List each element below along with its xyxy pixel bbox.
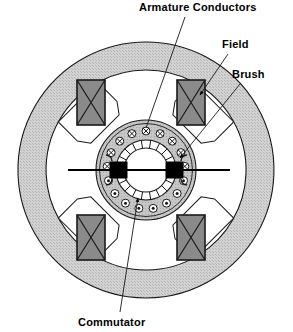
field-coil-top-right <box>177 80 205 125</box>
conductor-dot-glyph <box>113 192 116 195</box>
conductor-dot-glyph <box>182 179 185 182</box>
label-commutator: Commutator <box>78 316 146 328</box>
conductor-current-out <box>163 199 171 207</box>
label-brush: Brush <box>232 68 265 80</box>
conductor-current-in <box>116 137 124 145</box>
conductor-current-out <box>121 199 129 207</box>
conductor-current-in <box>168 137 176 145</box>
label-armature_conductors: Armature Conductors <box>139 1 256 13</box>
conductor-current-in <box>142 127 150 135</box>
conductor-dot-glyph <box>152 207 155 210</box>
conductor-current-in <box>128 130 136 138</box>
label-field: Field <box>222 38 249 50</box>
field-coil-bottom-right <box>177 215 205 260</box>
conductor-current-in <box>156 130 164 138</box>
conductor-current-out <box>149 204 157 212</box>
brush-left-block <box>110 162 127 178</box>
conductor-dot-glyph <box>124 202 127 205</box>
brush-right-block <box>166 162 183 178</box>
conductor-dot-glyph <box>165 202 168 205</box>
conductor-dot-glyph <box>107 179 110 182</box>
conductor-dot-glyph <box>137 207 140 210</box>
conductor-current-out <box>173 190 181 198</box>
field-coil-top-left <box>77 80 105 125</box>
diagram-canvas: Armature ConductorsFieldBrushCommutator <box>0 0 293 332</box>
motor-cross-section-diagram: Armature ConductorsFieldBrushCommutator <box>0 0 293 332</box>
conductor-dot-glyph <box>176 192 179 195</box>
conductor-current-out <box>111 190 119 198</box>
field-coil-bottom-left <box>77 215 105 260</box>
